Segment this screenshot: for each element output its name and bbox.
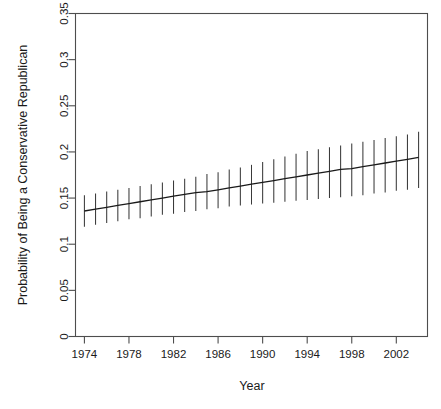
y-axis-title: Probability of Being a Conservative Repu… [16,45,30,306]
y-tick-label-4: 0.2 [58,144,70,160]
x-tick-label-1: 1978 [116,348,142,360]
x-tick-label-6: 1998 [339,348,365,360]
x-tick-label-5: 1994 [294,348,320,360]
x-tick-label-3: 1986 [205,348,231,360]
chart-figure: 00.050.10.150.20.250.30.35 1974197819821… [0,0,441,409]
x-axis-title: Year [239,379,264,393]
x-tick-label-2: 1982 [161,348,187,360]
y-tick-label-7: 0.35 [58,2,70,24]
y-tick-label-3: 0.15 [58,187,70,209]
x-tick-label-7: 2002 [384,348,410,360]
x-tick-label-4: 1990 [250,348,276,360]
y-tick-label-1: 0.05 [58,279,70,301]
y-tick-label-5: 0.25 [58,95,70,117]
y-tick-label-6: 0.3 [58,52,70,68]
y-tick-label-2: 0.1 [58,236,70,252]
x-tick-label-0: 1974 [72,348,98,360]
y-tick-label-0: 0 [58,333,70,339]
probability-conservative-republican-line-chart: 00.050.10.150.20.250.30.35 1974197819821… [0,0,441,409]
